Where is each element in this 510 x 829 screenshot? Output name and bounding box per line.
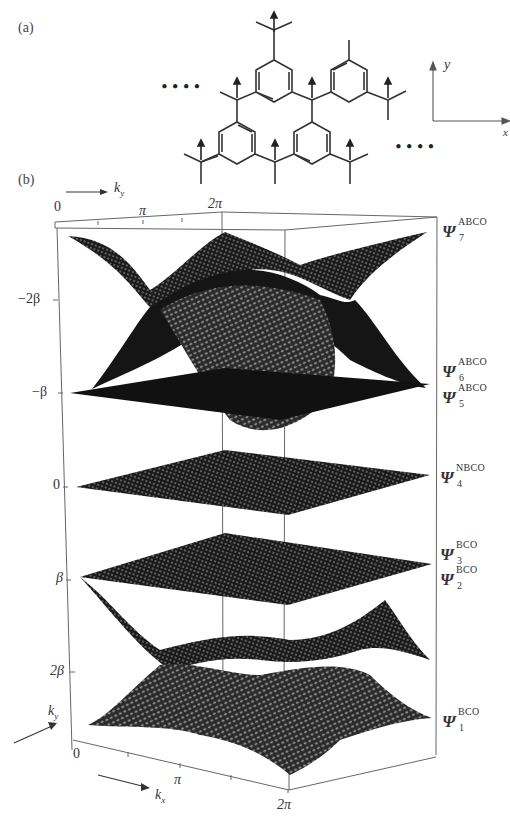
bottom-tick-pi: π — [174, 772, 181, 788]
ky-bottom-label: ky — [48, 703, 58, 721]
bottom-axis-arrows — [0, 0, 510, 829]
kx-bottom-label: kx — [155, 787, 165, 805]
bottom-tick-0: 0 — [73, 746, 80, 762]
bottom-tick-2pi: 2π — [277, 797, 291, 813]
